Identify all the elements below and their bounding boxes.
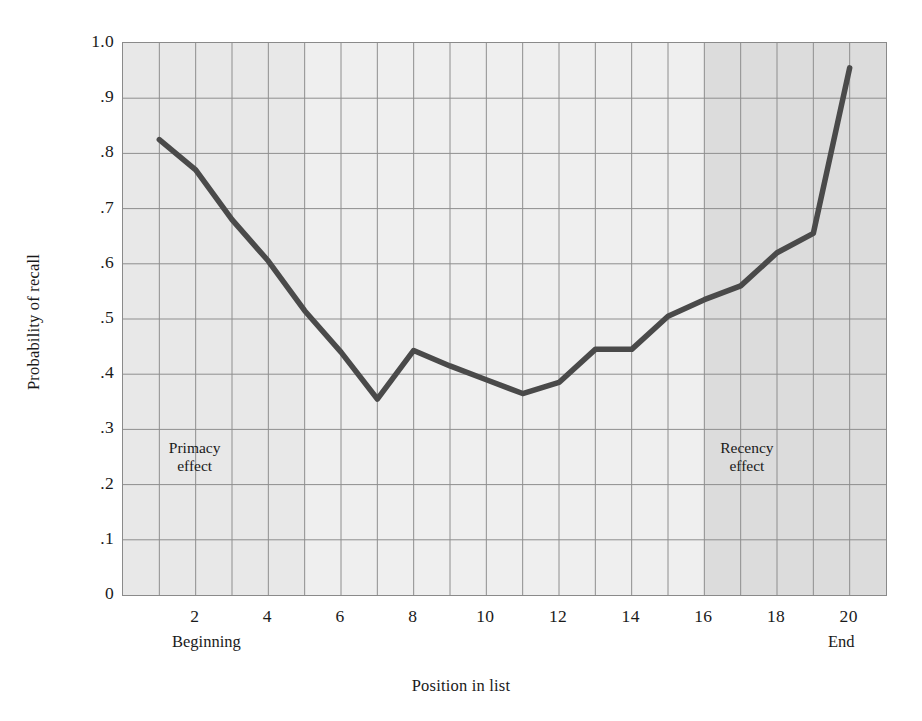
x-axis-end-label: End: [828, 634, 855, 651]
primacy-effect-annotation: Primacy effect: [135, 439, 255, 474]
x-tick-label: 14: [601, 608, 661, 626]
x-tick-label: 18: [746, 608, 806, 626]
x-axis-title: Position in list: [0, 676, 922, 696]
x-axis-start-label: Beginning: [172, 634, 241, 651]
recency-effect-annotation: Recency effect: [687, 439, 807, 474]
x-axis-tick-labels: 2468101214161820: [0, 0, 922, 721]
x-tick-label: 4: [237, 608, 297, 626]
x-tick-label: 10: [455, 608, 515, 626]
x-tick-label: 6: [310, 608, 370, 626]
x-tick-label: 8: [383, 608, 443, 626]
x-tick-label: 2: [165, 608, 225, 626]
x-tick-label: 12: [528, 608, 588, 626]
x-tick-label: 20: [819, 608, 879, 626]
x-tick-label: 16: [673, 608, 733, 626]
serial-position-curve-figure: Probability of recall 1.0.9.8.7.6.5.4.3.…: [0, 0, 922, 721]
